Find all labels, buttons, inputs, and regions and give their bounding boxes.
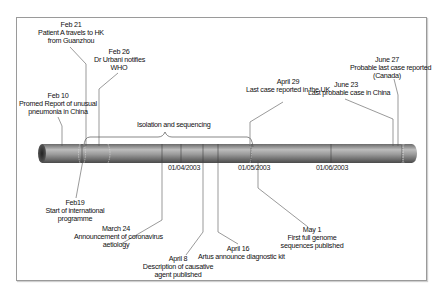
event-jun23: June 23 Last probable case in China bbox=[308, 81, 384, 97]
bracket-label: Isolation and sequencing bbox=[137, 120, 211, 129]
timeline-tube bbox=[38, 144, 417, 163]
event-jun27: June 27 Probable last case reported(Cana… bbox=[350, 56, 424, 80]
axis-tick-apr: 01/04/2003 bbox=[168, 164, 200, 171]
event-text: Announcement of coronavirusaetiology bbox=[74, 233, 158, 249]
axis-tick-may: 01/05/2003 bbox=[238, 164, 270, 171]
event-text: Probable last case reported(Canada) bbox=[350, 64, 424, 80]
event-feb26: Feb 26 Dr Urbani notifiesWHO bbox=[94, 48, 144, 72]
event-feb10: Feb 10 Promed Report of unusualpneumonia… bbox=[18, 92, 98, 116]
event-text: Start of internationalprogramme bbox=[40, 207, 110, 223]
event-mar24: March 24 Announcement of coronavirusaeti… bbox=[74, 225, 158, 249]
event-text: Dr Urbani notifiesWHO bbox=[94, 56, 144, 72]
event-text: First full genomesequences published bbox=[280, 234, 344, 250]
event-text: Patient A travels to HKfrom Guanzhou bbox=[38, 29, 104, 45]
event-text: Description of causativeagent published bbox=[141, 263, 215, 279]
event-text: Last probable case in China bbox=[308, 89, 384, 97]
event-feb21: Feb 21 Patient A travels to HKfrom Guanz… bbox=[38, 21, 104, 45]
event-text: Promed Report of unusualpneumonia in Chi… bbox=[18, 100, 98, 116]
event-apr16: April 16 Artus announce diagnostic kit bbox=[198, 245, 278, 261]
event-text: Artus announce diagnostic kit bbox=[198, 253, 278, 261]
event-feb19: Feb19 Start of internationalprogramme bbox=[40, 199, 110, 223]
axis-tick-jun: 01/06/2003 bbox=[316, 164, 348, 171]
event-may1: May 1 First full genomesequences publish… bbox=[280, 226, 344, 250]
